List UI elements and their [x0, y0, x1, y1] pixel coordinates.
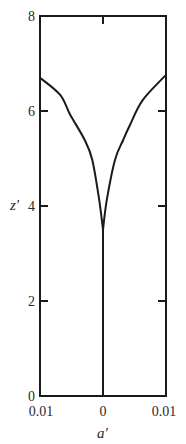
- y-tick-label: 4: [28, 199, 35, 214]
- x-tick-label: 0.01: [152, 404, 177, 419]
- y-tick-label: 8: [28, 9, 35, 24]
- x-tick-labels: 0.0100.01: [29, 404, 177, 419]
- y-tick-label: 0: [28, 389, 35, 404]
- y-tick-label: 6: [28, 104, 35, 119]
- series-left-branch: [40, 78, 103, 230]
- plot-lines: [40, 75, 166, 396]
- series-right-branch: [103, 75, 166, 230]
- x-tick-label: 0.01: [29, 404, 54, 419]
- y-tick-label: 2: [28, 294, 35, 309]
- x-axis-label: a′: [97, 425, 109, 441]
- y-tick-labels: 02468: [28, 9, 35, 404]
- chart: 02468 0.0100.01 z′ a′: [0, 0, 186, 444]
- x-tick-label: 0: [100, 404, 107, 419]
- y-axis-label: z′: [9, 197, 20, 213]
